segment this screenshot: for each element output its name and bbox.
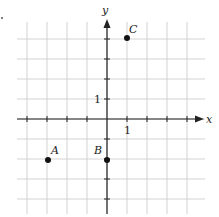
x-axis-arrow-icon (195, 116, 204, 123)
point-c-label: C (129, 23, 138, 36)
y-axis-arrow-icon (104, 19, 111, 28)
y-tick-label-1: 1 (94, 93, 101, 106)
x-tick-label-1: 1 (124, 124, 131, 137)
point-a-label: A (50, 144, 59, 157)
y-axis-label: y (101, 4, 109, 17)
x-axis-label: x (206, 113, 213, 126)
point-b-label: B (93, 144, 102, 157)
grid-lines (17, 22, 205, 214)
axes (17, 19, 204, 214)
coordinate-plane: x y 1 1 A B C (0, 0, 219, 217)
point-c: C (124, 23, 138, 41)
stray-mark (1, 17, 3, 19)
